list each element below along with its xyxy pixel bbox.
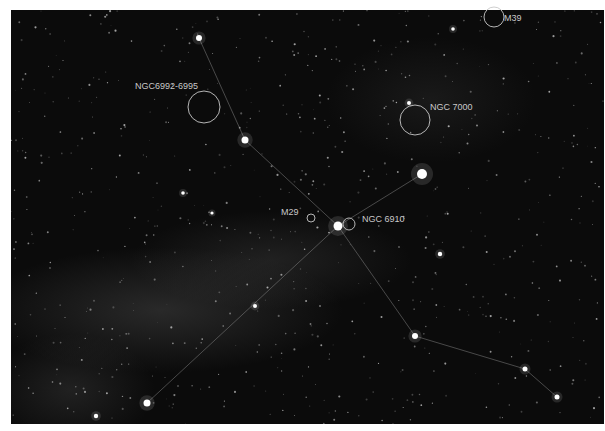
faint-star — [433, 370, 435, 372]
faint-star — [414, 346, 416, 348]
faint-star — [93, 300, 95, 302]
faint-star — [84, 391, 86, 393]
faint-star — [420, 301, 421, 302]
faint-star — [77, 145, 78, 146]
faint-star — [109, 10, 111, 12]
faint-star — [591, 11, 593, 13]
faint-star — [319, 94, 321, 96]
faint-star — [443, 136, 444, 137]
faint-star — [19, 375, 20, 376]
faint-star — [536, 234, 538, 236]
faint-star — [509, 256, 511, 258]
faint-star — [209, 69, 210, 70]
annotation-label-ngc7000: NGC 7000 — [430, 102, 473, 112]
faint-star — [444, 363, 446, 365]
faint-star — [328, 232, 330, 234]
faint-star — [172, 343, 174, 345]
faint-star — [343, 131, 345, 133]
faint-star — [324, 48, 326, 50]
faint-star — [433, 190, 434, 191]
faint-star — [258, 60, 260, 62]
faint-star — [373, 250, 375, 252]
faint-star — [297, 52, 299, 54]
annotation-circle-ngc7000 — [400, 105, 430, 135]
faint-star — [301, 170, 303, 172]
faint-star — [25, 73, 27, 75]
faint-star — [269, 208, 270, 209]
faint-star — [292, 309, 294, 311]
faint-star — [286, 113, 287, 114]
faint-star — [111, 339, 113, 341]
faint-star — [327, 98, 329, 100]
faint-star — [597, 302, 598, 303]
faint-star — [149, 140, 150, 141]
faint-star — [126, 347, 128, 349]
faint-star — [329, 353, 330, 354]
faint-star — [564, 141, 565, 142]
faint-star — [411, 394, 413, 396]
faint-star — [328, 412, 329, 413]
faint-star — [564, 10, 565, 11]
faint-star — [59, 383, 61, 385]
faint-star — [169, 405, 170, 406]
faint-star — [26, 209, 27, 210]
faint-star — [554, 21, 555, 22]
faint-star — [177, 385, 179, 387]
faint-star — [89, 14, 91, 16]
faint-star — [537, 314, 539, 316]
faint-star — [368, 236, 369, 237]
faint-star — [154, 279, 156, 281]
faint-star — [215, 300, 217, 302]
faint-star — [299, 116, 301, 118]
faint-star — [583, 340, 584, 341]
faint-star — [101, 368, 102, 369]
faint-star — [488, 64, 489, 65]
faint-star — [102, 328, 104, 330]
faint-star — [73, 411, 74, 412]
faint-star — [270, 414, 271, 415]
faint-star — [329, 125, 330, 126]
faint-star — [411, 158, 413, 160]
faint-star — [296, 13, 298, 15]
faint-star — [413, 308, 414, 309]
faint-star — [590, 161, 592, 163]
faint-star — [56, 374, 57, 375]
faint-star — [189, 42, 191, 44]
faint-star — [17, 336, 18, 337]
faint-star — [277, 367, 278, 368]
faint-star — [73, 229, 74, 230]
faint-star — [122, 396, 123, 397]
faint-star — [535, 134, 536, 135]
faint-star — [573, 105, 574, 106]
faint-star — [593, 407, 595, 409]
faint-star — [246, 127, 247, 128]
faint-star — [118, 80, 119, 81]
faint-star — [573, 146, 575, 148]
annotation-circle-m39 — [484, 7, 504, 27]
faint-star — [246, 90, 247, 91]
faint-star — [486, 251, 488, 253]
faint-star — [56, 369, 58, 371]
annotation-circle-m29 — [307, 214, 315, 222]
faint-star — [28, 243, 30, 245]
faint-star — [294, 332, 296, 334]
faint-star — [319, 101, 321, 103]
faint-star — [587, 44, 588, 45]
faint-star — [44, 308, 46, 310]
faint-star — [311, 334, 313, 336]
faint-star — [362, 65, 364, 67]
faint-star — [149, 261, 151, 263]
faint-star — [281, 353, 283, 355]
faint-star — [385, 70, 387, 72]
faint-star — [517, 113, 518, 114]
faint-star — [55, 328, 56, 329]
faint-star — [166, 304, 167, 305]
faint-star — [388, 280, 390, 282]
faint-star — [351, 320, 353, 322]
faint-star — [234, 391, 236, 393]
faint-star — [152, 375, 153, 376]
faint-star — [315, 55, 317, 57]
faint-star — [308, 366, 309, 367]
faint-star — [425, 247, 427, 249]
faint-star — [22, 78, 24, 80]
